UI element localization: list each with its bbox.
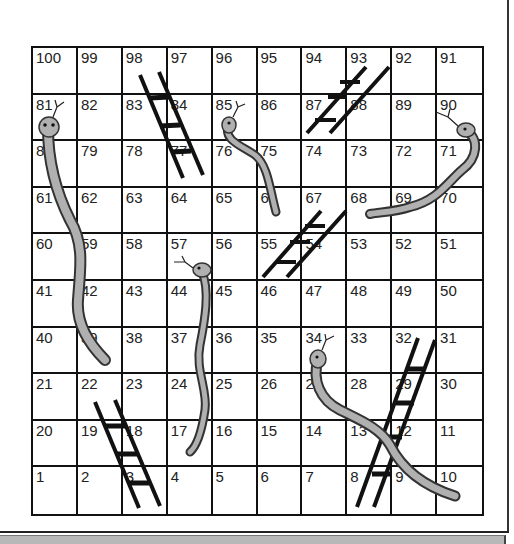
board-cell: 56: [213, 234, 258, 281]
board-cell: 9: [392, 467, 437, 514]
board-cell: 81: [33, 95, 78, 142]
board-cell: 90: [437, 95, 482, 142]
board-cell: 68: [347, 188, 392, 235]
board-cell: 5: [213, 467, 258, 514]
board-cell: 33: [347, 328, 392, 375]
board-cell: 17: [168, 421, 213, 468]
board-cell: 25: [213, 374, 258, 421]
board-cell: 6: [258, 467, 303, 514]
board-cell: 10: [437, 467, 482, 514]
board-cell: 61: [33, 188, 78, 235]
board-cell: 34: [302, 328, 347, 375]
board-cell: 8: [347, 467, 392, 514]
board-cell: 92: [392, 48, 437, 95]
board-cell: 40: [33, 328, 78, 375]
board-cell: 73: [347, 141, 392, 188]
board-cell: 42: [78, 281, 123, 328]
board-cell: 83: [123, 95, 168, 142]
board-cell: 71: [437, 141, 482, 188]
board-cell: 26: [258, 374, 303, 421]
board-cell: 11: [437, 421, 482, 468]
board-cell: 91: [437, 48, 482, 95]
board-cell: 62: [78, 188, 123, 235]
board-cell: 18: [123, 421, 168, 468]
board-cell: 27: [302, 374, 347, 421]
page-right-border: [507, 0, 509, 532]
board-cell: 50: [437, 281, 482, 328]
board-cell: 43: [123, 281, 168, 328]
board-cell: 70: [437, 188, 482, 235]
board-cell: 3: [123, 467, 168, 514]
board-cell: 58: [123, 234, 168, 281]
board-cell: 21: [33, 374, 78, 421]
board-cell: 12: [392, 421, 437, 468]
board-cell: 74: [302, 141, 347, 188]
game-board: 1009998979695949392918182838485868788899…: [31, 46, 484, 516]
board-cell: 48: [347, 281, 392, 328]
board-cell: 82: [78, 95, 123, 142]
board-cell: 29: [392, 374, 437, 421]
board-cell: 31: [437, 328, 482, 375]
board-cell: 22: [78, 374, 123, 421]
board-cell: 59: [78, 234, 123, 281]
board-cell: 63: [123, 188, 168, 235]
board-cell: 72: [392, 141, 437, 188]
bottom-panel: [0, 535, 506, 544]
board-cell: 64: [168, 188, 213, 235]
board-cell: 2: [78, 467, 123, 514]
board-cell: 96: [213, 48, 258, 95]
board-cell: 57: [168, 234, 213, 281]
board-cell: 60: [33, 234, 78, 281]
board-cell: 38: [123, 328, 168, 375]
board-cell: 87: [302, 95, 347, 142]
board-cell: 53: [347, 234, 392, 281]
board-cell: 54: [302, 234, 347, 281]
board-cell: 84: [168, 95, 213, 142]
board-cell: 36: [213, 328, 258, 375]
board-cell: 45: [213, 281, 258, 328]
board-cell: 15: [258, 421, 303, 468]
board-cell: 76: [213, 141, 258, 188]
board-cell: 46: [258, 281, 303, 328]
board-cell: 14: [302, 421, 347, 468]
board-cell: 78: [123, 141, 168, 188]
board-cell: 75: [258, 141, 303, 188]
board-cell: 95: [258, 48, 303, 95]
board-cell: 65: [213, 188, 258, 235]
board-cell: 51: [437, 234, 482, 281]
board-cell: 23: [123, 374, 168, 421]
board-cell: 55: [258, 234, 303, 281]
board-cell: 85: [213, 95, 258, 142]
board-cell: 24: [168, 374, 213, 421]
bottom-divider: [0, 531, 509, 533]
board-cell: 89: [392, 95, 437, 142]
board-cell: 37: [168, 328, 213, 375]
board-cell: 100: [33, 48, 78, 95]
board-cell: 16: [213, 421, 258, 468]
board-cell: 52: [392, 234, 437, 281]
board-cell: 88: [347, 95, 392, 142]
board-cell: 69: [392, 188, 437, 235]
board-cell: 28: [347, 374, 392, 421]
board-cell: 35: [258, 328, 303, 375]
board-cell: 97: [168, 48, 213, 95]
board-cell: 94: [302, 48, 347, 95]
board-cell: 32: [392, 328, 437, 375]
board-cell: 67: [302, 188, 347, 235]
board-cell: 4: [168, 467, 213, 514]
board-cell: 49: [392, 281, 437, 328]
board-cell: 30: [437, 374, 482, 421]
board-cell: 99: [78, 48, 123, 95]
board-cell: 66: [258, 188, 303, 235]
board-cell: 79: [78, 141, 123, 188]
board-cell: 47: [302, 281, 347, 328]
board-cell: 39: [78, 328, 123, 375]
board-cell: 80: [33, 141, 78, 188]
board-cell: 13: [347, 421, 392, 468]
board-cell: 41: [33, 281, 78, 328]
board-cell: 19: [78, 421, 123, 468]
board-cell: 77: [168, 141, 213, 188]
board-cell: 20: [33, 421, 78, 468]
board-cell: 98: [123, 48, 168, 95]
board-cell: 93: [347, 48, 392, 95]
